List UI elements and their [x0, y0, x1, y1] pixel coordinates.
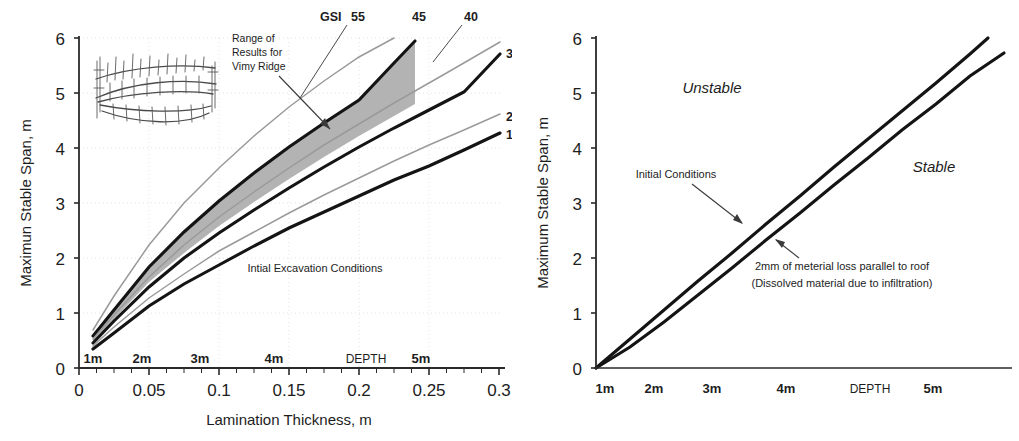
left-depth-axis-label: DEPTH — [346, 352, 387, 366]
left-depth-tick-1m: 1m — [84, 351, 103, 366]
left-chart-panel: 6 5 4 3 2 1 0 0 0.05 0.1 0.15 0.2 0.25 0… — [0, 0, 512, 441]
initial-conditions-label: Initial Conditions — [636, 168, 717, 180]
jointed-rock-roof-sketch — [94, 54, 218, 125]
left-chart-svg: 6 5 4 3 2 1 0 0 0.05 0.1 0.15 0.2 0.25 0… — [0, 0, 512, 441]
right-ytick-1: 1 — [573, 305, 582, 324]
vimy-range-note-line3: Vimy Ridge — [232, 60, 286, 72]
left-depth-tick-3m: 3m — [191, 351, 210, 366]
right-ytick-4: 4 — [573, 140, 582, 159]
gsi-prefix-label: GSI — [320, 10, 342, 24]
right-ytick-0: 0 — [573, 360, 582, 379]
left-xtick-1: 0.05 — [132, 381, 165, 400]
material-loss-label-line2: (Dissolved material due to infiltration) — [752, 277, 933, 289]
curve-2mm-material-loss — [596, 53, 1004, 368]
right-depth-tick-2m: 2m — [645, 381, 664, 396]
figure-root: 6 5 4 3 2 1 0 0 0.05 0.1 0.15 0.2 0.25 0… — [0, 0, 1019, 441]
left-ytick-2: 2 — [56, 250, 65, 269]
left-x-axis-title: Lamination Thickness, m — [206, 411, 372, 428]
material-loss-label-line1: 2mm of meterial loss parallel to roof — [755, 260, 930, 272]
right-depth-tick-3m: 3m — [703, 381, 722, 396]
right-ytick-6: 6 — [573, 30, 582, 49]
left-xtick-2: 0.1 — [207, 381, 231, 400]
curve-initial-conditions — [596, 38, 988, 368]
left-xtick-3: 0.15 — [272, 381, 305, 400]
vimy-range-note-line1: Range of — [232, 32, 275, 44]
vimy-range-note-line2: Results for — [232, 46, 283, 58]
left-depth-tick-5m: 5m — [412, 351, 431, 366]
left-xtick-4: 0.2 — [347, 381, 371, 400]
gsi-label-40: 40 — [464, 10, 478, 24]
left-ytick-0: 0 — [56, 360, 65, 379]
stable-region-label: Stable — [913, 158, 956, 175]
unstable-region-label: Unstable — [682, 79, 741, 96]
curve-gsi-30 — [93, 54, 500, 343]
right-ytick-2: 2 — [573, 250, 582, 269]
right-depth-tick-5m: 5m — [924, 381, 943, 396]
right-ytick-5: 5 — [573, 85, 582, 104]
left-ytick-1: 1 — [56, 305, 65, 324]
left-depth-tick-2m: 2m — [133, 351, 152, 366]
right-depth-axis-label: DEPTH — [850, 382, 891, 396]
gsi-label-55: 55 — [351, 10, 365, 24]
right-ytick-3: 3 — [573, 195, 582, 214]
left-ytick-5: 5 — [56, 85, 65, 104]
right-depth-tick-4m: 4m — [777, 381, 796, 396]
left-ytick-4: 4 — [56, 140, 65, 159]
vimy-range-arrow — [279, 76, 330, 129]
initial-conditions-arrowhead — [733, 214, 743, 224]
left-depth-tick-4m: 4m — [265, 351, 284, 366]
right-y-axis-title: Maximum Stable Span, m — [534, 117, 551, 289]
right-chart-panel: 6 5 4 3 2 1 0 Maximum Stable Span, m 1m … — [512, 0, 1019, 441]
left-xtick-5: 0.25 — [412, 381, 445, 400]
initial-excavation-conditions-note: Intial Excavation Conditions — [247, 262, 383, 274]
material-loss-arrowhead — [775, 239, 785, 248]
left-ytick-3: 3 — [56, 195, 65, 214]
initial-conditions-arrow — [692, 184, 742, 223]
left-xtick-0: 0 — [74, 381, 83, 400]
right-chart-svg: 6 5 4 3 2 1 0 Maximum Stable Span, m 1m … — [512, 0, 1019, 441]
left-xtick-6: 0.3 — [487, 381, 511, 400]
left-y-axis-title: Maximun Stable Span, m — [17, 119, 34, 287]
gsi-label-45: 45 — [412, 10, 426, 24]
right-depth-tick-1m: 1m — [596, 381, 615, 396]
left-ytick-6: 6 — [56, 30, 65, 49]
